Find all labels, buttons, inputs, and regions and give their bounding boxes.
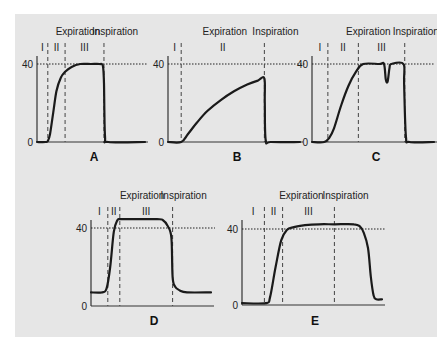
panel-label-c: C bbox=[372, 150, 381, 164]
y-tick-label-40: 40 bbox=[153, 59, 165, 70]
co2-curve bbox=[242, 224, 382, 303]
phase-label-III: III bbox=[80, 42, 88, 53]
y-tick-label-40: 40 bbox=[22, 59, 34, 70]
panel-label-d: D bbox=[150, 314, 159, 328]
expiration-label: Expiration bbox=[120, 190, 164, 201]
phase-label-II: II bbox=[111, 206, 117, 217]
inspiration-label: Inspiration bbox=[252, 26, 298, 37]
phase-label-II: II bbox=[340, 42, 346, 53]
phase-label-I: I bbox=[173, 42, 176, 53]
panel-c: 040IIIIIIExpirationInspirationC bbox=[297, 26, 437, 164]
phase-label-II: II bbox=[271, 206, 277, 217]
panel-a: 040IIIIIIExpirationInspirationA bbox=[22, 26, 148, 164]
phase-label-II: II bbox=[54, 42, 60, 53]
panel-e: 040IIIIIIExpirationInspirationE bbox=[227, 190, 385, 328]
inspiration-label: Inspiration bbox=[322, 190, 368, 201]
co2-curve bbox=[168, 77, 300, 143]
capnogram-figure: 040IIIIIIExpirationInspirationA040IIIExp… bbox=[15, 14, 437, 337]
phase-label-I: I bbox=[252, 206, 255, 217]
y-tick-label-0: 0 bbox=[158, 137, 164, 148]
phase-label-III: III bbox=[377, 42, 385, 53]
y-tick-label-0: 0 bbox=[81, 301, 87, 312]
inspiration-label: Inspiration bbox=[92, 26, 138, 37]
co2-curve bbox=[91, 219, 211, 293]
y-tick-label-0: 0 bbox=[232, 300, 238, 311]
y-tick-label-40: 40 bbox=[227, 224, 239, 235]
expiration-label: Expiration bbox=[203, 26, 247, 37]
panel-d: 040IIIIIIExpirationInspirationD bbox=[76, 190, 215, 328]
y-tick-label-40: 40 bbox=[76, 223, 88, 234]
phase-label-II: II bbox=[220, 42, 226, 53]
co2-curve bbox=[312, 62, 434, 142]
phase-label-III: III bbox=[142, 206, 150, 217]
phase-label-III: III bbox=[304, 206, 312, 217]
inspiration-label: Inspiration bbox=[393, 26, 437, 37]
panel-label-e: E bbox=[311, 314, 319, 328]
phase-label-I: I bbox=[41, 42, 44, 53]
panel-label-a: A bbox=[90, 150, 99, 164]
inspiration-label: Inspiration bbox=[161, 190, 207, 201]
expiration-label: Expiration bbox=[279, 190, 323, 201]
y-tick-label-40: 40 bbox=[297, 59, 309, 70]
y-tick-label-0: 0 bbox=[302, 137, 308, 148]
panel-b: 040IIIExpirationInspirationB bbox=[153, 26, 305, 164]
expiration-label: Expiration bbox=[346, 26, 390, 37]
panel-label-b: B bbox=[233, 150, 242, 164]
co2-curve bbox=[37, 64, 145, 143]
capnogram-panels: 040IIIIIIExpirationInspirationA040IIIExp… bbox=[15, 14, 437, 337]
y-tick-label-0: 0 bbox=[27, 137, 33, 148]
phase-label-I: I bbox=[319, 42, 322, 53]
phase-label-I: I bbox=[98, 206, 101, 217]
